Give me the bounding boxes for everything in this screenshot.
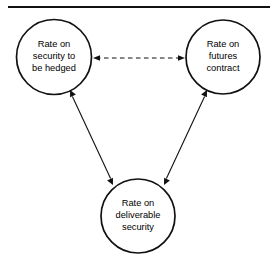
node-label-line-2: futures bbox=[209, 51, 238, 61]
solid-connector-line bbox=[72, 97, 110, 179]
diagram-canvas: Rate on security to be hedged Rate on fu… bbox=[0, 0, 276, 264]
arrowhead-lower bbox=[107, 178, 113, 185]
node-futures-contract[interactable]: Rate on futures contract bbox=[186, 20, 260, 94]
node-label-line-3: security bbox=[122, 222, 154, 232]
node-label-line-1: Rate on bbox=[38, 39, 71, 49]
arrowhead-right bbox=[178, 55, 185, 61]
node-label-line-2: deliverable bbox=[116, 210, 161, 220]
solid-connector-line bbox=[166, 97, 204, 179]
node-label-line-1: Rate on bbox=[207, 39, 240, 49]
node-security-to-be-hedged[interactable]: Rate on security to be hedged bbox=[17, 20, 92, 95]
arrowhead-left bbox=[93, 55, 100, 61]
edge-deliverable-to-futures bbox=[164, 90, 207, 185]
arrowhead-lower bbox=[164, 178, 170, 185]
edge-hedged-to-futures bbox=[93, 55, 185, 61]
node-label-line-1: Rate on bbox=[122, 198, 155, 208]
arrowhead-upper bbox=[201, 90, 207, 97]
node-deliverable-security[interactable]: Rate on deliverable security bbox=[101, 179, 175, 253]
node-label-line-2: security to bbox=[33, 51, 75, 61]
node-label-line-3: contract bbox=[206, 63, 239, 73]
edge-deliverable-to-hedged bbox=[70, 90, 113, 185]
node-label-line-3: be hedged bbox=[32, 63, 76, 73]
